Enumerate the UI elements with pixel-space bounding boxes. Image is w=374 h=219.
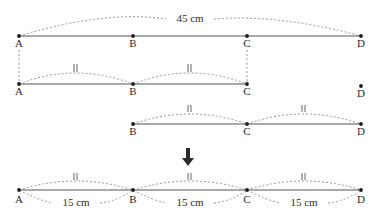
arc-below-CD-left [247,190,280,203]
segment-length-label-AB: 15 cm [62,196,90,208]
arc-BC-row3 [133,114,247,124]
point-D [359,188,363,192]
arc-below-BC-right [214,190,247,203]
arc-CD-row4 [247,181,361,190]
arc-AB-row4 [19,181,133,190]
arc-BC-row2 [133,73,247,84]
down-arrow-icon [182,148,194,166]
point-label-D: D [357,87,365,99]
segment-length-label-CD: 15 cm [290,196,318,208]
point-label-A: A [15,37,23,49]
segment-length-label-BC: 15 cm [176,196,204,208]
point-C [245,188,249,192]
point-label-A: A [15,85,23,97]
point-label-D: D [357,37,365,49]
row-segment-AC: A B C D [15,64,365,99]
figure-canvas: 45 cm A B C D A [0,0,374,219]
point-label-A: A [15,193,23,205]
point-label-C: C [243,193,250,205]
arc-AB-row2 [19,73,133,84]
brace-arc-left [19,17,166,36]
point-label-D: D [357,193,365,205]
row-segment-BD: B C D [129,105,365,137]
point-B [131,188,135,192]
point-label-B: B [129,193,136,205]
point-label-B: B [129,37,136,49]
point-label-B: B [129,85,136,97]
brace-arc-right [214,18,361,36]
point-label-C: C [243,37,250,49]
arc-below-AB-left [19,190,52,203]
point-label-D: D [357,125,365,137]
row-result-segment-AD: 15 cm 15 cm 15 cm A B C D [15,173,365,208]
arc-CD-row3 [247,114,361,124]
arc-below-AB-right [100,190,133,203]
point-label-C: C [243,125,250,137]
geometry-figure: 45 cm A B C D A [0,0,374,219]
row-whole-segment-AD: 45 cm A B C D [15,12,365,49]
total-length-label: 45 cm [176,12,204,24]
arc-below-BC-left [133,190,166,203]
point-A [17,188,21,192]
arc-BC-row4 [133,181,247,190]
point-label-B: B [129,125,136,137]
point-label-C: C [243,85,250,97]
